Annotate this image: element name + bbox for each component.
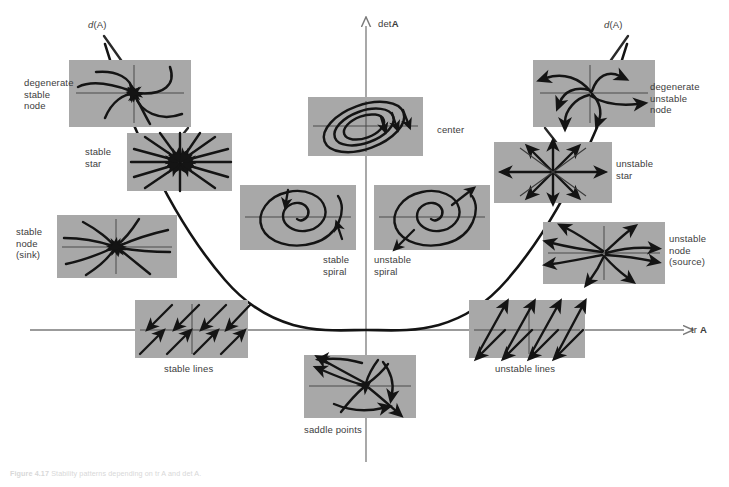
label-stable-star: stable star [85,146,130,169]
label-degenerate-unstable-node: degenerate unstable node [650,81,726,116]
figure-caption-prefix: Figure 4.17 [10,469,49,478]
panel-degenerate-unstable-node [533,60,655,127]
label-unstable-lines: unstable lines [495,363,555,375]
det-a-axis-label: detA [378,18,399,29]
panel-unstable-node-source [543,222,665,284]
label-stable-lines: stable lines [164,363,213,375]
discriminant-label-left: d(A) [88,19,107,30]
label-stable-spiral: stable spiral [323,254,368,277]
label-unstable-spiral: unstable spiral [374,254,424,277]
panel-unstable-spiral [374,185,490,250]
discriminant-paren: (A) [93,19,106,30]
figure-caption: Figure 4.17 Stability patterns depending… [10,469,201,478]
panel-center [308,92,423,162]
figure-canvas: d(A) d(A) detA tr A degenerate stable no… [0,0,729,487]
panel-stable-node-sink [57,215,177,278]
label-stable-node-sink: stable node (sink) [16,226,64,261]
tr-a-axis-label: tr A [691,324,707,335]
panel-stable-spiral [240,185,356,250]
panel-saddle-points [304,355,416,418]
discriminant-paren-right: (A) [609,19,622,30]
label-degenerate-stable-node: degenerate stable node [24,77,94,112]
trace-determinant-diagram [0,0,729,487]
tr-text: tr [691,324,700,335]
panel-stable-lines [135,300,250,358]
det-bold-a: A [392,18,399,29]
panel-stable-star [127,133,232,191]
discriminant-label-right: d(A) [604,19,623,30]
figure-caption-text: Stability patterns depending on tr A and… [51,469,201,478]
label-center: center [437,124,464,136]
label-unstable-star: unstable star [616,158,671,181]
det-text: det [378,18,392,29]
panel-unstable-lines [469,300,585,358]
tr-bold-a: A [700,324,707,335]
label-saddle-points: saddle points [304,424,362,436]
label-unstable-node-source: unstable node (source) [669,233,727,268]
panel-unstable-star [494,142,612,203]
